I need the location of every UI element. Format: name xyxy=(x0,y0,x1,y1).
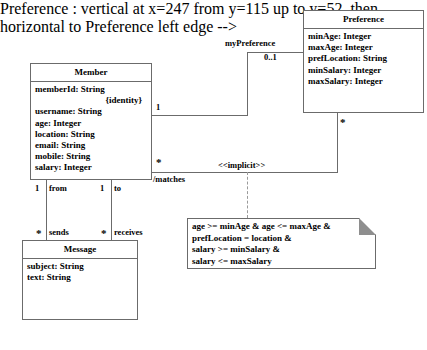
note-line-1: age >= minAge & age <= maxAge & xyxy=(192,221,372,233)
attribute-minage: minAge: Integer xyxy=(308,31,420,42)
attribute-minsalary: minSalary: Integer xyxy=(308,65,420,76)
multiplicity-member-one: 1 xyxy=(156,102,160,112)
role-label-sends: sends xyxy=(49,227,69,237)
attribute-memberid: memberId: String xyxy=(35,84,148,95)
attribute-email: email: String xyxy=(35,140,148,151)
multiplicity-mypreference-0-1: 0..1 xyxy=(264,52,277,62)
note-anchor-dashed-line xyxy=(247,172,248,218)
attribute-identity-stereotype: {identity} xyxy=(35,95,148,106)
attribute-text: text: String xyxy=(27,272,134,283)
multiplicity-sends-star: * xyxy=(36,229,42,237)
assoc-line-member-preference-vertical xyxy=(247,52,248,116)
multiplicity-matches-preference-star: * xyxy=(340,118,346,126)
role-label-from: from xyxy=(49,183,67,193)
role-label-receives: receives xyxy=(114,227,143,237)
class-box-member[interactable]: Member memberId: String {identity} usern… xyxy=(30,63,152,180)
class-box-preference[interactable]: Preference minAge: Integer maxAge: Integ… xyxy=(303,10,424,113)
note-line-3: salary >= minSalary & xyxy=(192,244,372,256)
assoc-line-matches-vertical xyxy=(337,113,338,173)
multiplicity-receives-star: * xyxy=(101,229,107,237)
association-name-matches: /matches xyxy=(153,174,185,184)
class-attributes-preference: minAge: Integer maxAge: Integer prefLoca… xyxy=(304,29,423,89)
assoc-line-receives-vertical xyxy=(111,180,112,240)
note-line-2: prefLocation = location & xyxy=(192,233,372,245)
assoc-line-sends-vertical xyxy=(46,180,47,240)
class-name-message: Message xyxy=(23,241,137,259)
attribute-maxage: maxAge: Integer xyxy=(308,42,420,53)
attribute-age: age: Integer xyxy=(35,118,148,129)
multiplicity-to-one: 1 xyxy=(100,183,104,193)
attribute-username: username: String xyxy=(35,106,148,117)
class-name-member: Member xyxy=(31,64,151,82)
class-attributes-message: subject: String text: String xyxy=(23,259,137,285)
class-box-message[interactable]: Message subject: String text: String xyxy=(22,240,138,320)
constraint-note[interactable]: age >= minAge & age <= maxAge & prefLoca… xyxy=(187,218,376,269)
role-label-to: to xyxy=(114,183,121,193)
multiplicity-from-one: 1 xyxy=(35,183,39,193)
uml-class-diagram-canvas: Preference : vertical at x=247 from y=11… xyxy=(0,0,427,350)
note-text: age >= minAge & age <= maxAge & prefLoca… xyxy=(192,221,372,267)
attribute-mobile: mobile: String xyxy=(35,151,148,162)
stereotype-implicit: <<implicit>> xyxy=(218,160,265,170)
association-label-mypreference: myPreference xyxy=(225,38,275,48)
attribute-maxsalary: maxSalary: Integer xyxy=(308,76,420,87)
assoc-line-matches-horizontal xyxy=(152,172,338,173)
assoc-line-member-preference-horizontal xyxy=(152,115,247,116)
attribute-preflocation: prefLocation: String xyxy=(308,53,420,64)
class-name-preference: Preference xyxy=(304,11,423,29)
attribute-subject: subject: String xyxy=(27,261,134,272)
class-attributes-member: memberId: String {identity} username: St… xyxy=(31,82,151,176)
attribute-location: location: String xyxy=(35,129,148,140)
multiplicity-matches-member-star: * xyxy=(156,158,162,166)
attribute-salary: salary: Integer xyxy=(35,162,148,173)
note-line-4: salary <= maxSalary xyxy=(192,256,372,268)
